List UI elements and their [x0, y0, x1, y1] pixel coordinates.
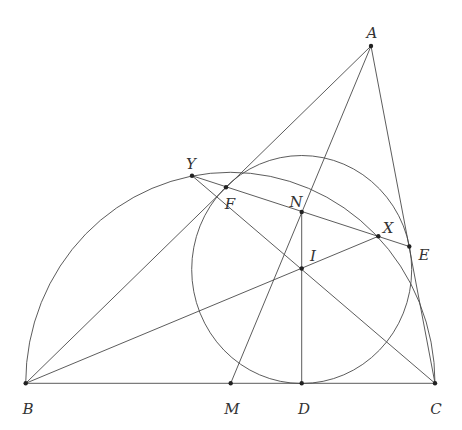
- label-i: I: [309, 247, 317, 265]
- segment-bx: [26, 236, 379, 383]
- label-e: E: [418, 246, 430, 264]
- points-layer: [24, 44, 438, 386]
- point-e: [407, 244, 411, 248]
- point-i: [300, 266, 304, 270]
- point-c: [433, 381, 437, 385]
- label-x: X: [382, 219, 395, 237]
- label-m: M: [223, 400, 240, 418]
- segments-layer: [26, 46, 435, 383]
- segment-am: [231, 46, 371, 383]
- geometry-diagram: ABCMDINXEFY: [0, 0, 462, 430]
- label-c: C: [430, 400, 442, 418]
- point-x: [376, 234, 380, 238]
- segment-ab: [26, 46, 371, 383]
- label-y: Y: [186, 155, 198, 173]
- label-a: A: [365, 24, 378, 42]
- circles-layer: [26, 156, 435, 384]
- point-y: [190, 174, 194, 178]
- point-m: [229, 381, 233, 385]
- label-d: D: [297, 400, 310, 418]
- segment-ac: [371, 46, 435, 383]
- point-d: [300, 381, 304, 385]
- label-b: B: [21, 400, 33, 418]
- point-f: [224, 185, 228, 189]
- label-f: F: [224, 195, 236, 213]
- point-b: [24, 381, 28, 385]
- point-a: [369, 44, 373, 48]
- diagram-canvas: ABCMDINXEFY: [0, 0, 462, 430]
- label-n: N: [288, 193, 303, 211]
